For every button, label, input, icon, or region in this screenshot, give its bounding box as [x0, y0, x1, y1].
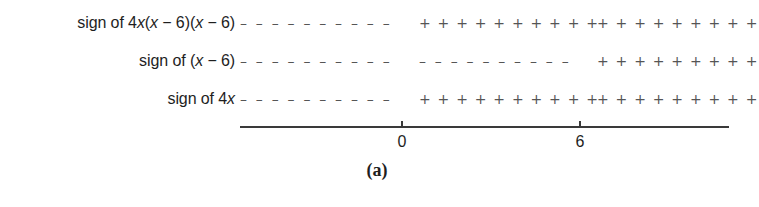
tick-label-0: 0	[398, 133, 407, 151]
sign-segment-product-left: – – – – – – – – – –	[240, 13, 392, 33]
sign-segment-product-middle: + + + + + + + + + +	[419, 13, 599, 33]
sign-segment-4x-middle: + + + + + + + + + +	[419, 89, 599, 109]
number-line-axis	[240, 126, 729, 128]
sign-segment-x-minus-6-middle: – – – – – – – – – –	[419, 51, 571, 71]
row-label-4x: sign of 4x	[168, 89, 236, 109]
sign-segment-4x-left: – – – – – – – – – –	[240, 89, 392, 109]
sign-segment-x-minus-6-right: + + + + + + + + +	[597, 51, 759, 71]
row-label-x-minus-6: sign of (x − 6)	[139, 51, 235, 71]
tick-mark-0	[401, 121, 403, 127]
sign-segment-4x-right: + + + + + + + + +	[597, 89, 759, 109]
sign-segment-product-right: + + + + + + + + +	[597, 13, 759, 33]
sign-segment-x-minus-6-left: – – – – – – – – – –	[240, 51, 392, 71]
row-label-product: sign of 4x(x − 6)(x − 6)	[77, 13, 235, 33]
figure-caption: (a)	[367, 160, 388, 181]
tick-label-6: 6	[576, 133, 585, 151]
tick-mark-6	[579, 121, 581, 127]
